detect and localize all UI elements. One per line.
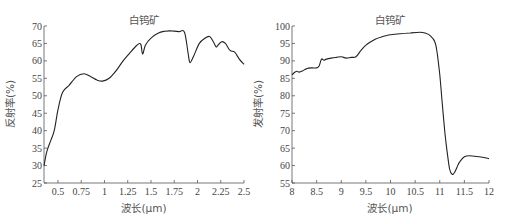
left-chart-reflectance: 白钨矿 253035404550556065700.50.7511.251.51… — [4, 14, 250, 214]
x-tick-label: 2.25 — [212, 186, 230, 197]
x-tick-label: 10.5 — [406, 186, 424, 197]
y-tick-label: 90 — [280, 55, 290, 66]
x-tick-label: 0.75 — [72, 186, 90, 197]
left-chart-title: 白钨矿 — [129, 14, 159, 26]
x-tick-label: 0.5 — [52, 186, 65, 197]
y-tick-label: 50 — [32, 90, 42, 101]
charts-canvas: 白钨矿 253035404550556065700.50.7511.251.51… — [0, 0, 512, 223]
y-tick-label: 55 — [32, 73, 42, 84]
x-tick-label: 1 — [102, 186, 107, 197]
y-tick-label: 60 — [280, 160, 290, 171]
x-tick-label: 12 — [484, 186, 494, 197]
x-tick-label: 2 — [195, 186, 200, 197]
y-tick-label: 25 — [32, 178, 42, 189]
right-chart-ylabel: 发射率(%) — [252, 80, 264, 128]
y-tick-label: 75 — [280, 108, 290, 119]
x-tick-label: 2.5 — [238, 186, 251, 197]
x-tick-label: 8 — [290, 186, 295, 197]
x-tick-label: 11.5 — [456, 186, 473, 197]
y-tick-label: 30 — [32, 160, 42, 171]
right-chart-line — [292, 32, 489, 174]
y-tick-label: 45 — [32, 108, 42, 119]
x-tick-label: 1.25 — [119, 186, 137, 197]
y-tick-label: 100 — [275, 21, 290, 32]
y-tick-label: 95 — [280, 38, 290, 49]
x-tick-label: 10 — [386, 186, 396, 197]
y-tick-label: 65 — [32, 38, 42, 49]
y-tick-label: 55 — [280, 178, 290, 189]
right-chart-xlabel: 波长(μm) — [367, 202, 412, 214]
right-chart-emissivity: 白钨矿 55606570758085909510088.599.51010.51… — [252, 14, 494, 214]
y-tick-label: 70 — [32, 21, 42, 32]
y-tick-label: 70 — [280, 125, 290, 136]
y-tick-label: 85 — [280, 73, 290, 84]
left-chart-xlabel: 波长(μm) — [121, 202, 166, 214]
x-tick-label: 1.75 — [165, 186, 183, 197]
x-tick-label: 11 — [435, 186, 445, 197]
y-tick-label: 40 — [32, 125, 42, 136]
x-tick-label: 8.5 — [310, 186, 323, 197]
right-chart-title: 白钨矿 — [375, 14, 405, 26]
left-chart-line — [44, 31, 244, 166]
x-tick-label: 1.5 — [145, 186, 158, 197]
x-tick-label: 9 — [339, 186, 344, 197]
left-chart-ylabel: 反射率(%) — [4, 80, 16, 128]
y-tick-label: 35 — [32, 143, 42, 154]
y-tick-label: 80 — [280, 90, 290, 101]
right-chart-axes: 55606570758085909510088.599.51010.51111.… — [275, 21, 494, 198]
x-tick-label: 9.5 — [360, 186, 373, 197]
right-axis-lines — [292, 26, 489, 183]
y-tick-label: 60 — [32, 55, 42, 66]
y-tick-label: 65 — [280, 143, 290, 154]
